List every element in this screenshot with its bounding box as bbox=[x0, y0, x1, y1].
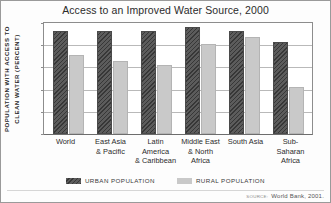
bar-group bbox=[90, 23, 134, 134]
bar-urban bbox=[229, 31, 244, 134]
bar-group bbox=[178, 23, 222, 134]
chart-title: Access to an Improved Water Source, 2000 bbox=[1, 4, 330, 16]
x-axis-category-label: South Asia bbox=[223, 137, 268, 166]
bar-urban bbox=[141, 31, 156, 134]
bar-urban bbox=[185, 27, 200, 134]
bar-group bbox=[266, 23, 310, 134]
source-text: World Bank, 2001. bbox=[271, 193, 324, 199]
plot-area: 100806040200 bbox=[43, 22, 313, 135]
bar-rural bbox=[69, 55, 84, 134]
y-axis-title-line2: CLEAN WATER (PERCENT) bbox=[14, 19, 20, 139]
source-prefix: SOURCE: bbox=[246, 194, 268, 199]
bar-rural bbox=[245, 37, 260, 134]
bar-rural bbox=[113, 61, 128, 134]
y-axis-title: POPULATION WITH ACCESS TO CLEAN WATER (P… bbox=[1, 19, 23, 139]
source-divider bbox=[7, 190, 324, 191]
legend-label: URBAN POPULATION bbox=[85, 177, 155, 184]
bar-urban bbox=[97, 31, 112, 134]
legend-swatch bbox=[66, 178, 81, 184]
chart-legend: URBAN POPULATIONRURAL POPULATION bbox=[1, 177, 330, 184]
bar-rural bbox=[289, 87, 304, 134]
legend-item: RURAL POPULATION bbox=[177, 177, 265, 184]
bar-urban bbox=[273, 42, 288, 134]
source-row: SOURCE: World Bank, 2001. bbox=[246, 193, 324, 199]
bar-group bbox=[222, 23, 266, 134]
legend-label: RURAL POPULATION bbox=[196, 177, 265, 184]
bar-group bbox=[46, 23, 90, 134]
bar-group bbox=[134, 23, 178, 134]
x-axis-category-label: World bbox=[43, 137, 88, 166]
bar-rural bbox=[201, 44, 216, 134]
y-axis-tick bbox=[41, 134, 44, 135]
legend-swatch bbox=[177, 178, 192, 184]
bar-groups bbox=[44, 23, 312, 134]
x-axis-category-label: Middle East& NorthAfrica bbox=[178, 137, 223, 166]
chart-figure: Access to an Improved Water Source, 2000… bbox=[0, 0, 331, 203]
bar-rural bbox=[157, 65, 172, 134]
y-axis-title-line1: POPULATION WITH ACCESS TO bbox=[4, 19, 10, 139]
x-axis-category-labels: WorldEast Asia& PacificLatinAmerica& Car… bbox=[43, 137, 313, 166]
x-axis-category-label: LatinAmerica& Caribbean bbox=[133, 137, 178, 166]
x-axis-category-label: East Asia& Pacific bbox=[88, 137, 133, 166]
x-axis-category-label: Sub-SaharanAfrica bbox=[268, 137, 313, 166]
legend-item: URBAN POPULATION bbox=[66, 177, 155, 184]
bar-urban bbox=[53, 31, 68, 134]
